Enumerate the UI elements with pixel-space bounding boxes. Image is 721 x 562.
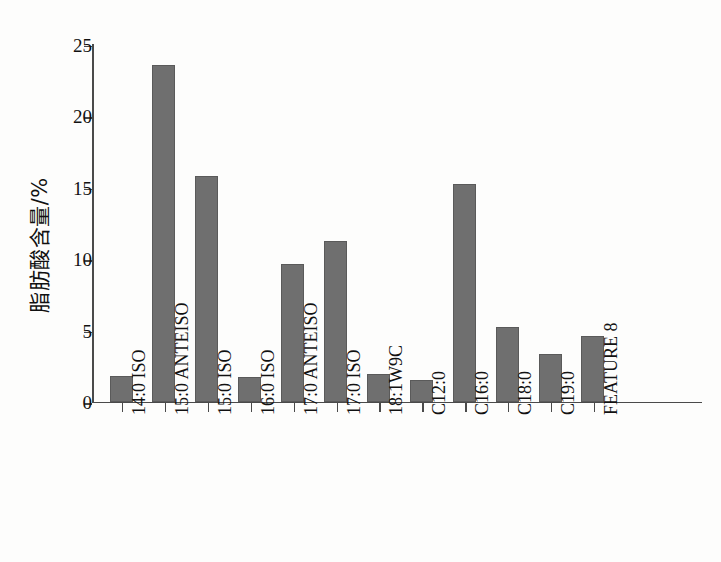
plot-area: 0510152025 14:0 ISO15:0 ANTEISO15:0 ISO1…	[92, 44, 702, 403]
x-tick-label-text: FEATURE 8	[601, 322, 622, 415]
x-tick-mark	[337, 403, 338, 412]
x-tick-mark	[251, 403, 252, 412]
bar	[453, 184, 476, 401]
y-tick-label: 10	[73, 249, 92, 271]
x-tick-mark	[594, 403, 595, 412]
x-tick-mark	[551, 403, 552, 412]
x-tick-label-text: C18:0	[515, 371, 536, 415]
y-tick-label: 0	[83, 392, 93, 414]
y-tick-label: 5	[83, 321, 93, 343]
x-tick-mark	[122, 403, 123, 412]
fatty-acid-bar-chart: 脂肪酸含量/% 0510152025 14:0 ISO15:0 ANTEISO1…	[0, 0, 721, 562]
x-tick-mark	[508, 403, 509, 412]
x-tick-mark	[422, 403, 423, 412]
x-tick-mark	[465, 403, 466, 412]
x-tick-label-text: 16:0 ISO	[258, 349, 279, 415]
x-tick-label-text: 14:0 ISO	[129, 349, 150, 415]
x-tick-label-text: 15:0 ISO	[215, 349, 236, 415]
y-axis-title-text: 脂肪酸含量/%	[23, 177, 53, 313]
x-tick-label-text: C16:0	[472, 371, 493, 415]
x-tick-mark	[165, 403, 166, 412]
x-tick-label-text: 17:0 ISO	[344, 349, 365, 415]
x-tick-label-text: 17:0 ANTEISO	[301, 303, 322, 416]
x-tick-mark	[208, 403, 209, 412]
y-axis-line	[92, 44, 94, 403]
y-tick-label: 20	[73, 106, 92, 128]
y-axis-title: 脂肪酸含量/%	[18, 150, 58, 340]
y-tick-label: 15	[73, 178, 92, 200]
y-tick-label: 25	[73, 35, 92, 57]
x-tick-label-text: C19:0	[558, 371, 579, 415]
x-tick-label-text: 18:1W9C	[386, 345, 407, 415]
x-tick-mark	[379, 403, 380, 412]
x-tick-label-text: C12:0	[429, 371, 450, 415]
x-tick-mark	[294, 403, 295, 412]
x-tick-label-text: 15:0 ANTEISO	[172, 303, 193, 416]
